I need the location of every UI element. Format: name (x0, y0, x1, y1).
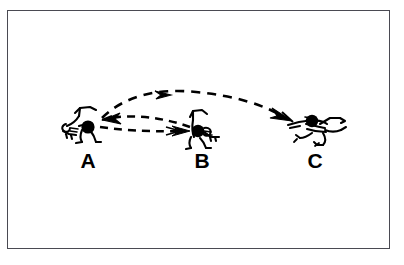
label-b: B (194, 149, 209, 172)
player-c-ball (306, 115, 318, 127)
trajectory-a-to-b (100, 126, 190, 136)
player-a-figure (62, 107, 101, 143)
label-c: C (307, 149, 322, 172)
trajectory-b-to-a (102, 113, 190, 127)
line-b-to-a-path (112, 116, 190, 127)
player-a-ball (81, 120, 94, 133)
label-a: A (80, 149, 95, 172)
figure-root: A B C (0, 0, 404, 265)
player-b-ball (192, 125, 204, 137)
scene-drawing: A B C (0, 0, 404, 265)
